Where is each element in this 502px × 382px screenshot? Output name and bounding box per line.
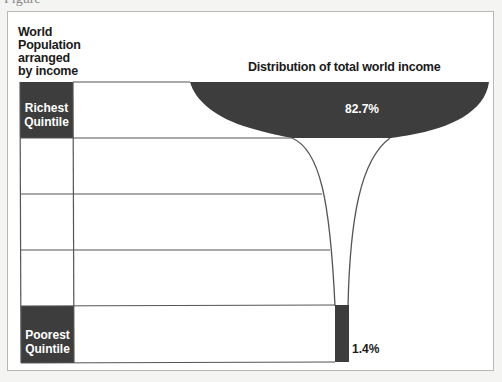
poorest-income-bar [335,305,349,362]
richest-label-line1: Richest [20,101,73,115]
poorest-income-value: 1.4% [352,342,379,356]
funnel-chart [0,0,502,382]
poorest-label-line1: Poorest [21,328,74,342]
richest-income-value: 82.7% [345,102,379,116]
funnel-left-edge [292,138,335,306]
richest-label-line2: Quintile [20,115,73,129]
poorest-label-line2: Quintile [21,342,74,356]
richest-income-shape [190,82,489,138]
poorest-quintile-label: Poorest Quintile [21,328,74,356]
richest-quintile-label: Richest Quintile [20,101,73,129]
funnel-right-edge [348,138,390,306]
